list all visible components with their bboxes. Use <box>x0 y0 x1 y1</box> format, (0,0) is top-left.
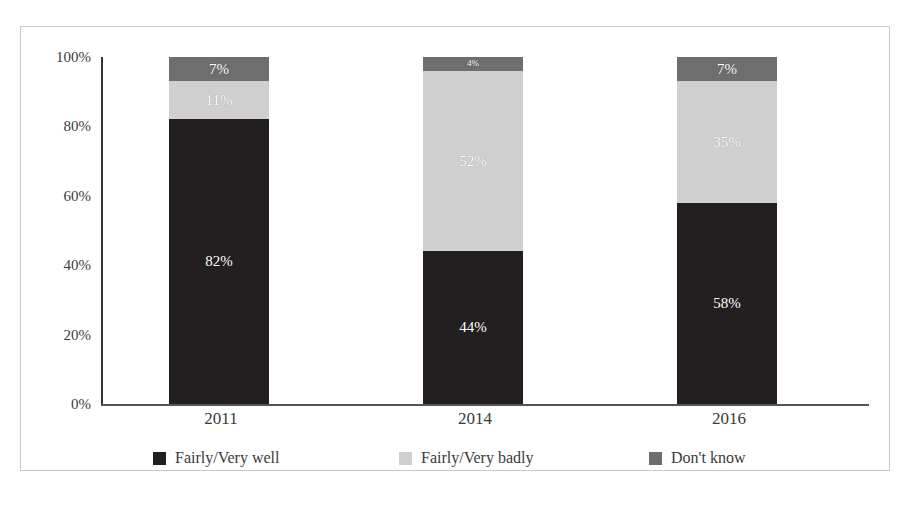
figure-frame: 100% 80% 60% 40% 20% 0% 82%11%7%44%52%4%… <box>20 26 890 471</box>
bar-value-label: 58% <box>713 296 741 311</box>
legend-swatch-fairly-very-well <box>153 452 166 465</box>
bar-segment-2011-fairly-very-badly: 11% <box>169 81 269 119</box>
bar-group-2011: 82%11%7% <box>169 57 269 404</box>
legend-label-fairly-very-badly: Fairly/Very badly <box>421 449 533 467</box>
legend-label-fairly-very-well: Fairly/Very well <box>175 449 279 467</box>
bar-group-2014: 44%52%4% <box>423 57 523 404</box>
legend-swatch-dont-know <box>649 452 662 465</box>
y-tick-20: 20% <box>35 327 91 342</box>
bar-value-label: 11% <box>206 93 233 108</box>
y-tick-60: 60% <box>35 188 91 203</box>
bar-value-label: 7% <box>717 62 737 77</box>
page-top-cropped-text <box>600 0 900 12</box>
legend-swatch-fairly-very-badly <box>399 452 412 465</box>
y-tick-0: 0% <box>35 397 91 412</box>
x-tick-2014: 2014 <box>395 409 555 429</box>
bar-segment-2011-fairly-very-well: 82% <box>169 119 269 404</box>
bar-value-label: 4% <box>467 59 479 68</box>
bar-segment-2014-fairly-very-badly: 52% <box>423 71 523 251</box>
figure-caption <box>20 486 620 506</box>
x-tick-2011: 2011 <box>141 409 301 429</box>
bar-segment-2011-don-t-know: 7% <box>169 57 269 81</box>
bar-segment-2014-don-t-know: 4% <box>423 57 523 71</box>
y-tick-80: 80% <box>35 119 91 134</box>
legend-label-dont-know: Don't know <box>671 449 745 467</box>
chart-legend: Fairly/Very well Fairly/Very badly Don't… <box>101 445 871 471</box>
bar-segment-2016-fairly-very-well: 58% <box>677 203 777 404</box>
legend-item-fairly-very-badly: Fairly/Very badly <box>399 449 533 467</box>
x-tick-2016: 2016 <box>649 409 809 429</box>
bar-segment-2014-fairly-very-well: 44% <box>423 251 523 404</box>
bar-value-label: 7% <box>209 62 229 77</box>
legend-item-dont-know: Don't know <box>649 449 745 467</box>
bar-group-2016: 58%35%7% <box>677 57 777 404</box>
bar-value-label: 52% <box>459 154 487 169</box>
bar-value-label: 44% <box>459 320 487 335</box>
y-tick-40: 40% <box>35 258 91 273</box>
y-tick-100: 100% <box>35 50 91 65</box>
bar-series-container: 82%11%7%44%52%4%58%35%7% <box>101 57 869 404</box>
bar-segment-2016-fairly-very-badly: 35% <box>677 81 777 202</box>
y-axis-tick-labels: 100% 80% 60% 40% 20% 0% <box>35 57 91 404</box>
bar-value-label: 82% <box>205 254 233 269</box>
bar-value-label: 35% <box>713 135 741 150</box>
bar-segment-2016-don-t-know: 7% <box>677 57 777 81</box>
legend-item-fairly-very-well: Fairly/Very well <box>153 449 279 467</box>
plot-area: 100% 80% 60% 40% 20% 0% 82%11%7%44%52%4%… <box>101 57 871 412</box>
x-axis-line <box>101 404 869 406</box>
